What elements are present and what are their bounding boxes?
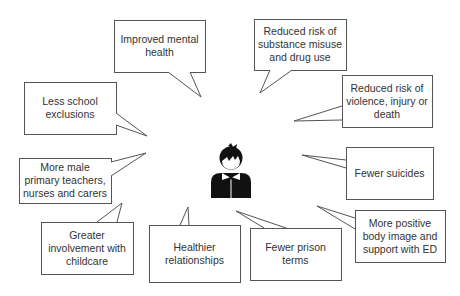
- bubble-text-reduced-substance-misuse: Reduced risk of substance misuse and dru…: [254, 19, 346, 70]
- person-with-bowtie-icon: [206, 142, 256, 200]
- bubble-text-less-school-exclusions: Less school exclusions: [24, 82, 116, 134]
- bubble-text-more-positive-body-image: More positive body image and support wit…: [355, 210, 445, 262]
- bubble-text-more-male-primary-teachers: More male primary teachers, nurses and c…: [19, 158, 111, 203]
- bubble-text-fewer-suicides: Fewer suicides: [346, 147, 433, 199]
- bubble-text-reduced-violence: Reduced risk of violence, injury or deat…: [342, 75, 432, 127]
- bubble-text-healthier-relationships: Healthier relationships: [149, 225, 240, 282]
- bubble-text-fewer-prison-terms: Fewer prison terms: [250, 228, 341, 280]
- bubble-text-improved-mental-health: Improved mental health: [114, 20, 205, 72]
- bubble-text-greater-childcare-involvement: Greater involvement with childcare: [41, 222, 133, 274]
